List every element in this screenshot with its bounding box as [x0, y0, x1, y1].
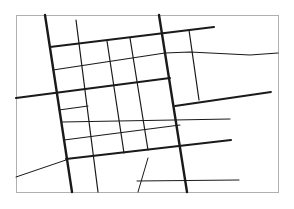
map-canvas — [0, 0, 294, 209]
street-map[interactable] — [0, 0, 294, 209]
map-frame — [17, 16, 279, 193]
